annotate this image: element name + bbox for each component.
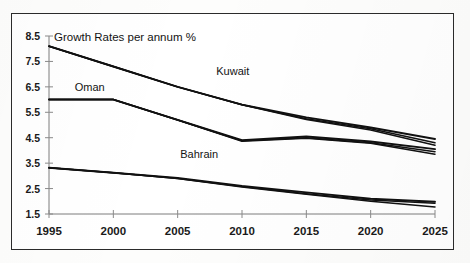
x-tick-label-2020: 2020 — [358, 225, 384, 237]
y-tick-label-2.5: 2.5 — [25, 183, 40, 195]
series-line-oman-variant-b — [49, 100, 435, 155]
x-tick-label-2015: 2015 — [294, 225, 320, 237]
y-tick-label-5.5: 5.5 — [25, 106, 40, 118]
y-tick-label-1.5: 1.5 — [25, 208, 40, 220]
series-inline-labels: KuwaitOmanBahrain — [75, 65, 250, 159]
x-tick-label-2005: 2005 — [165, 225, 191, 237]
x-tick-label-2010: 2010 — [229, 225, 255, 237]
y-axis-tick-labels: 1.52.53.54.55.56.57.58.5 — [25, 30, 40, 220]
series-label-oman: Oman — [75, 81, 105, 93]
series-label-bahrain: Bahrain — [180, 148, 218, 160]
y-tick-label-4.5: 4.5 — [25, 132, 40, 144]
y-tick-label-6.5: 6.5 — [25, 81, 40, 93]
x-tick-label-2000: 2000 — [101, 225, 127, 237]
x-axis-tick-labels: 1995200020052010201520202025 — [36, 225, 448, 237]
line-chart-plot: 1.52.53.54.55.56.57.58.5 199520002005201… — [12, 14, 455, 251]
y-tick-label-7.5: 7.5 — [25, 55, 40, 67]
series-line-kuwait — [49, 46, 435, 139]
x-tick-label-2025: 2025 — [422, 225, 448, 237]
y-tick-label-3.5: 3.5 — [25, 157, 40, 169]
y-tick-label-8.5: 8.5 — [25, 30, 40, 42]
chart-title: Growth Rates per annum % — [54, 31, 196, 43]
chart-figure-frame: 1.52.53.54.55.56.57.58.5 199520002005201… — [11, 13, 454, 250]
series-label-kuwait: Kuwait — [216, 65, 249, 77]
x-tick-label-1995: 1995 — [36, 225, 62, 237]
